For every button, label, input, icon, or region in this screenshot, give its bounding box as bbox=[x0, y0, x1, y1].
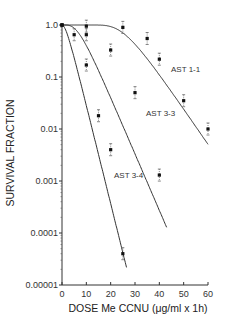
curves bbox=[62, 25, 208, 267]
y-tick-label: 0.001 bbox=[35, 176, 58, 186]
series-labels: AST 1-1AST 3-3AST 3-4 bbox=[114, 65, 201, 180]
data-point bbox=[133, 91, 136, 94]
y-tick-label: 0.1 bbox=[45, 72, 58, 82]
y-axis-label: SURVIVAL FRACTION bbox=[4, 99, 16, 206]
data-point bbox=[146, 37, 149, 40]
data-point bbox=[97, 114, 100, 117]
data-point bbox=[158, 173, 161, 176]
series-label: AST 3-3 bbox=[146, 109, 176, 118]
data-point bbox=[109, 48, 112, 51]
data-point bbox=[121, 252, 124, 255]
data-point bbox=[85, 33, 88, 36]
x-tick-label: 60 bbox=[203, 289, 213, 299]
y-tick-label: 0.01 bbox=[40, 124, 58, 134]
x-axis-label: DOSE Me CCNU (μg/ml x 1h) bbox=[68, 302, 207, 314]
series-label: AST 1-1 bbox=[171, 65, 201, 74]
data-point bbox=[158, 58, 161, 61]
fitted-curve-1 bbox=[62, 25, 208, 144]
x-tick-label: 40 bbox=[154, 289, 164, 299]
y-tick-label: 0.00001 bbox=[25, 280, 58, 290]
data-point bbox=[121, 26, 124, 29]
data-point bbox=[85, 63, 88, 66]
data-point bbox=[182, 99, 185, 102]
x-axis: 0102030405060 bbox=[59, 282, 213, 299]
x-tick-label: 30 bbox=[130, 289, 140, 299]
x-tick-label: 0 bbox=[59, 289, 64, 299]
x-tick-label: 50 bbox=[179, 289, 189, 299]
data-point bbox=[85, 25, 88, 28]
data-point bbox=[109, 148, 112, 151]
y-tick-label: 0.0001 bbox=[30, 228, 58, 238]
y-axis: 1.00.10.010.0010.00010.00001 bbox=[25, 20, 62, 290]
data-point bbox=[206, 127, 209, 130]
survival-chart: 1.00.10.010.0010.00010.00001 01020304050… bbox=[0, 0, 228, 323]
x-tick-label: 10 bbox=[81, 289, 91, 299]
series-label: AST 3-4 bbox=[114, 171, 144, 180]
data-point bbox=[60, 23, 63, 26]
data-points bbox=[60, 20, 209, 260]
y-tick-label: 1.0 bbox=[45, 20, 58, 30]
data-point bbox=[73, 33, 76, 36]
x-tick-label: 20 bbox=[106, 289, 116, 299]
fitted-curve-2 bbox=[62, 25, 167, 227]
